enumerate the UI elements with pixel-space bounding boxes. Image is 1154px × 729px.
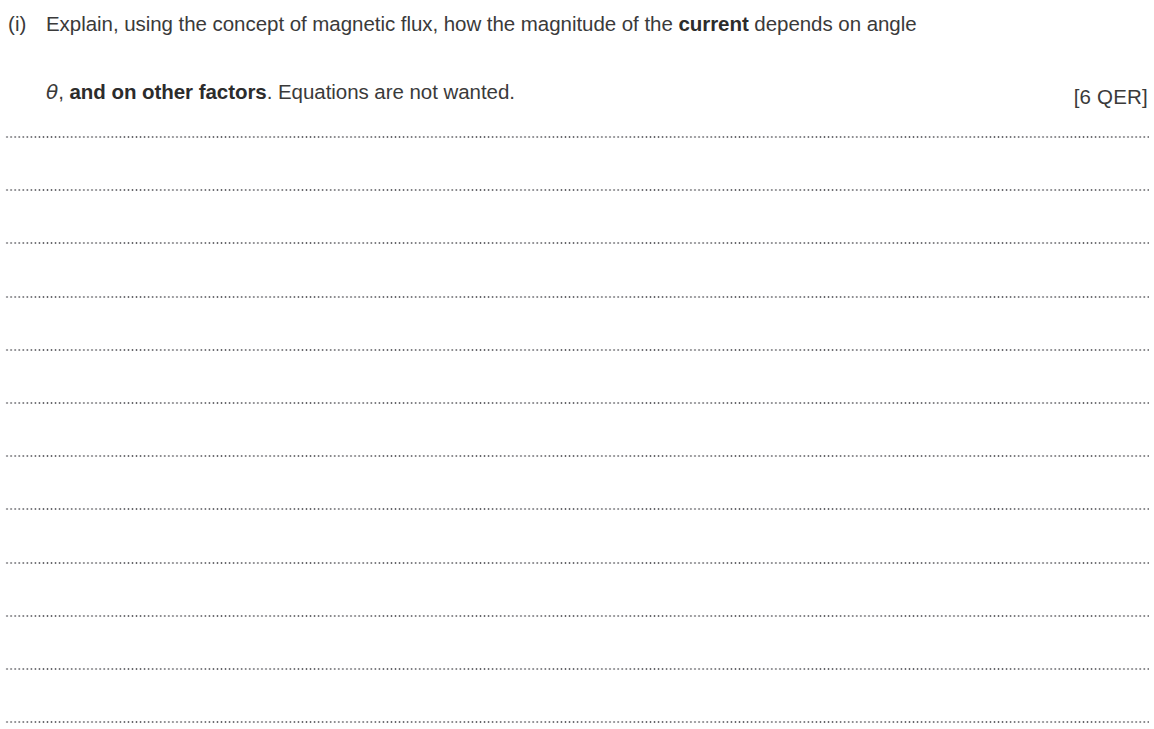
dotted-rule-icon <box>5 347 1149 351</box>
dotted-rule-icon <box>5 506 1149 510</box>
answer-line[interactable] <box>0 175 1154 228</box>
answer-line[interactable] <box>0 122 1154 175</box>
answer-line[interactable] <box>0 601 1154 654</box>
question-line1-text-after-bold: depends on angle <box>749 12 917 35</box>
answer-line[interactable] <box>0 282 1154 335</box>
dotted-rule-icon <box>5 613 1149 617</box>
question-text-line-2: θ, and on other factors. Equations are n… <box>46 80 515 104</box>
answer-line[interactable] <box>0 654 1154 707</box>
dotted-rule-icon <box>5 134 1149 138</box>
question-line1-emphasis-current: current <box>678 12 748 35</box>
dotted-rule-icon <box>5 453 1149 457</box>
dotted-rule-icon <box>5 666 1149 670</box>
exam-question-page: (i) Explain, using the concept of magnet… <box>0 0 1154 729</box>
answer-line[interactable] <box>0 548 1154 601</box>
dotted-rule-icon <box>5 400 1149 404</box>
answer-line[interactable] <box>0 494 1154 547</box>
question-line1-text-before-bold: Explain, using the concept of magnetic f… <box>46 12 678 35</box>
question-line2-comma: , <box>58 80 69 103</box>
dotted-rule-icon <box>5 240 1149 244</box>
answer-line[interactable] <box>0 228 1154 281</box>
answer-lines-area[interactable] <box>0 122 1154 729</box>
question-text-line-1: Explain, using the concept of magnetic f… <box>46 12 917 36</box>
answer-line[interactable] <box>0 335 1154 388</box>
answer-line[interactable] <box>0 707 1154 729</box>
question-block: (i) Explain, using the concept of magnet… <box>0 0 1154 75</box>
dotted-rule-icon <box>5 187 1149 191</box>
question-second-row: θ, and on other factors. Equations are n… <box>0 41 1154 75</box>
question-number-label: (i) <box>8 13 27 35</box>
question-line2-tail: . Equations are not wanted. <box>267 80 515 103</box>
answer-line[interactable] <box>0 388 1154 441</box>
dotted-rule-icon <box>5 294 1149 298</box>
question-marks-allocation: [6 QER] <box>1074 85 1148 109</box>
theta-symbol: θ <box>46 80 58 104</box>
dotted-rule-icon <box>5 719 1149 723</box>
question-first-row: (i) Explain, using the concept of magnet… <box>0 7 1154 41</box>
question-line2-emphasis-other-factors: and on other factors <box>69 80 266 103</box>
answer-line[interactable] <box>0 441 1154 494</box>
dotted-rule-icon <box>5 560 1149 564</box>
